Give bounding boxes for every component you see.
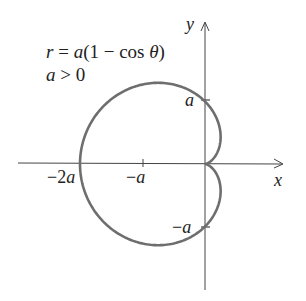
tick-label-a-y: a bbox=[185, 90, 194, 110]
condition-label: a > 0 bbox=[46, 64, 85, 85]
x-axis-label: x bbox=[273, 170, 282, 190]
cardioid-diagram: r = a(1 − cos θ) a > 0 y x −2a −a a −a bbox=[0, 0, 306, 301]
x-axis bbox=[18, 163, 282, 164]
tick-label-neg-2a: −2a bbox=[47, 167, 75, 187]
equation-label: r = a(1 − cos θ) bbox=[46, 41, 165, 63]
tick-label-neg-a-y: −a bbox=[172, 217, 191, 237]
y-axis-label: y bbox=[184, 14, 194, 34]
tick-label-neg-a-x: −a bbox=[126, 167, 145, 187]
